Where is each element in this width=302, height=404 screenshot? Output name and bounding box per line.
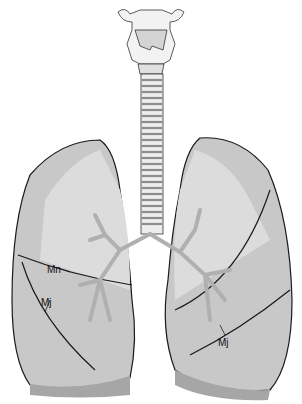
lung-diagram: Mn Mj Mj [0,0,302,404]
label-major-fissure-right: Mj [41,297,52,308]
lung-illustration [0,0,302,404]
label-major-fissure-left: Mj [218,337,229,348]
larynx [118,9,184,74]
right-lung [12,140,135,398]
label-minor-fissure: Mn [47,264,61,275]
trachea [141,74,163,234]
